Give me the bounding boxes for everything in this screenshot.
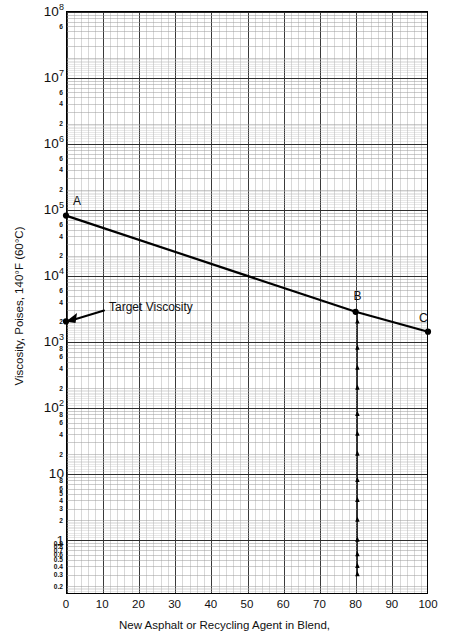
x-tick-30: 30	[168, 598, 181, 610]
y-tick-minor-6: 2	[59, 186, 63, 193]
y-tick-minor-4: 6	[59, 154, 63, 161]
y-tick-minor-7: 6	[59, 220, 63, 227]
y-tick-minor-21: 8	[59, 476, 63, 483]
y-tick-minor-24: 4	[59, 496, 63, 503]
y-tick-minor-10: 6	[59, 286, 63, 293]
y-tick-major-4: 104	[44, 268, 64, 283]
y-tick-minor-14: 6	[59, 353, 63, 360]
y-tick-minor-26: 2	[59, 516, 63, 523]
x-tick-0: 0	[63, 598, 69, 610]
x-tick-10: 10	[96, 598, 109, 610]
y-tick-minor-18: 6	[59, 419, 63, 426]
y-tick-major-1: 107	[44, 70, 64, 85]
y-tick-major-2: 106	[44, 136, 64, 151]
y-tick-minor-19: 4	[59, 430, 63, 437]
x-tick-80: 80	[349, 598, 362, 610]
point-label-c: C	[419, 311, 428, 325]
y-tick-minor-20: 2	[59, 450, 63, 457]
y-tick-major-3: 105	[44, 202, 64, 217]
y-tick-minor-9: 2	[59, 252, 63, 259]
x-tick-70: 70	[313, 598, 326, 610]
y-tick-minor-25: 3	[59, 505, 63, 512]
y-tick-minor-34: 0.2	[54, 582, 63, 589]
x-tick-20: 20	[132, 598, 145, 610]
y-tick-minor-3: 2	[59, 120, 63, 127]
y-axis-title: Viscosity, Poises, 140°F (60°C)	[13, 191, 25, 421]
y-tick-minor-2: 4	[59, 100, 63, 107]
x-axis-title: New Asphalt or Recycling Agent in Blend,	[0, 619, 449, 631]
y-tick-minor-11: 4	[59, 298, 63, 305]
target-viscosity-label: Target Viscosity	[109, 300, 193, 314]
viscosity-blend-chart: 1081071061051041031021016642642642642864…	[0, 0, 449, 634]
y-tick-minor-13: 8	[59, 344, 63, 351]
y-tick-minor-33: 0.3	[54, 571, 63, 578]
point-label-b: B	[354, 289, 362, 303]
y-tick-minor-8: 4	[59, 232, 63, 239]
x-tick-90: 90	[385, 598, 398, 610]
y-tick-minor-16: 2	[59, 384, 63, 391]
y-tick-minor-0: 6	[59, 22, 63, 29]
y-tick-minor-32: 0.4	[54, 562, 63, 569]
x-tick-40: 40	[204, 598, 217, 610]
y-tick-minor-17: 8	[59, 410, 63, 417]
x-tick-50: 50	[241, 598, 254, 610]
x-tick-100: 100	[418, 598, 437, 610]
x-tick-60: 60	[277, 598, 290, 610]
y-tick-minor-1: 6	[59, 88, 63, 95]
y-tick-minor-15: 4	[59, 364, 63, 371]
point-label-a: A	[73, 194, 81, 208]
y-axis: 1081071061051041031021016642642642642864…	[0, 0, 66, 634]
y-tick-minor-5: 4	[59, 166, 63, 173]
y-tick-minor-12: 2	[59, 318, 63, 325]
y-tick-major-0: 108	[44, 4, 64, 19]
